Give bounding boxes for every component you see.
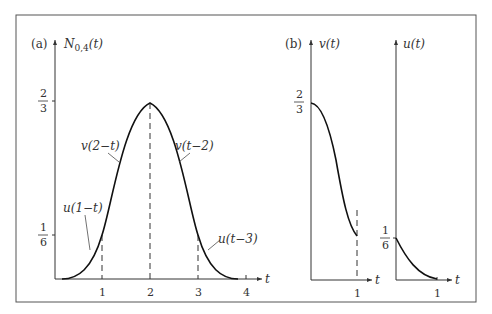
- figure-frame: [16, 15, 476, 302]
- panel-b-u-x-label: t: [455, 273, 460, 287]
- panel-a-tag: (a): [31, 37, 48, 51]
- panel-b-u-ytick-1-6: 1 6: [380, 224, 390, 252]
- label-v-t-minus-2: v(t−2): [175, 139, 214, 153]
- panel-a-xtick-1: 1: [99, 286, 106, 299]
- svg-text:2: 2: [40, 87, 47, 100]
- panel-b-u-y-label: u(t): [403, 37, 425, 51]
- panel-b-v-xtick-1: 1: [354, 287, 361, 300]
- label-u-t-minus-3: u(t−3): [218, 232, 258, 246]
- panel-b-tag: (b): [285, 37, 302, 51]
- panel-a-ytick-2-3: 2 3: [38, 87, 48, 115]
- svg-text:6: 6: [382, 239, 389, 252]
- svg-text:3: 3: [40, 102, 47, 115]
- svg-text:6: 6: [40, 236, 47, 249]
- panel-b-v-x-label: t: [375, 273, 380, 287]
- panel-b-u-xtick-1: 1: [434, 287, 441, 300]
- svg-text:1: 1: [40, 221, 47, 234]
- panel-a-y-label: N0,4(t): [63, 37, 103, 53]
- label-v-2-minus-t: v(2−t): [81, 139, 120, 153]
- label-u-1-minus-t: u(1−t): [63, 201, 103, 215]
- panel-b-v-ytick-2-3: 2 3: [294, 88, 304, 116]
- svg-text:1: 1: [382, 224, 389, 237]
- u-curve: [396, 238, 437, 279]
- panel-a-ytick-1-6: 1 6: [38, 221, 48, 249]
- panel-b-v-y-label: v(t): [319, 37, 340, 51]
- v-curve: [311, 103, 357, 236]
- panel-a: (a) t N0,4(t) 2 3 1 6 1 2 3 4: [31, 37, 270, 299]
- panel-a-xtick-2: 2: [147, 286, 154, 299]
- panel-b-u: u(t) t 1 6 1: [380, 37, 460, 300]
- svg-text:2: 2: [296, 88, 303, 101]
- panel-a-xtick-4: 4: [243, 286, 250, 299]
- panel-a-x-label: t: [265, 272, 270, 286]
- panel-a-xtick-3: 3: [195, 286, 202, 299]
- figure-canvas: (a) t N0,4(t) 2 3 1 6 1 2 3 4: [0, 0, 492, 314]
- bspline-curve: [62, 103, 238, 279]
- svg-text:3: 3: [296, 103, 303, 116]
- panel-b-v: (b) v(t) t 2 3 1: [285, 37, 380, 300]
